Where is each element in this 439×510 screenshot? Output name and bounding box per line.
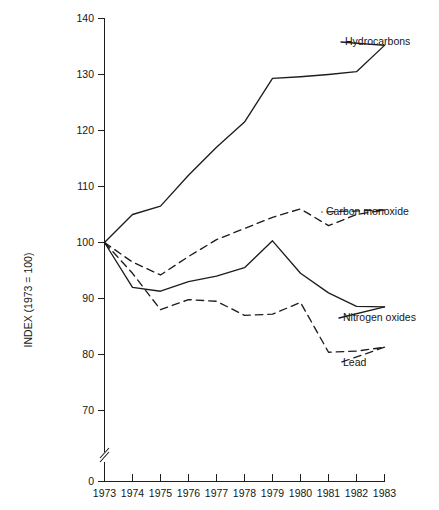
series-label-carbon-monoxide: Carbon monoxide — [326, 205, 409, 217]
x-tick-label-1980: 1980 — [289, 487, 313, 499]
series-line-lead — [105, 243, 385, 353]
x-tick-label-1982: 1982 — [345, 487, 369, 499]
y-tick-label-140: 140 — [76, 12, 94, 24]
x-tick-label-1979: 1979 — [261, 487, 285, 499]
series-label-nitrogen-oxides: Nitrogen oxides — [343, 311, 416, 323]
series-line-nitrogen-oxides — [105, 241, 385, 307]
y-tick-label-100: 100 — [76, 236, 94, 248]
y-tick-label-130: 130 — [76, 68, 94, 80]
x-tick-label-1983: 1983 — [373, 487, 397, 499]
x-tick-label-1978: 1978 — [233, 487, 257, 499]
series-label-lead: Lead — [343, 356, 367, 368]
x-tick-label-1973: 1973 — [93, 487, 117, 499]
y-tick-marks — [98, 19, 105, 482]
y-tick-label-90: 90 — [82, 292, 94, 304]
series-layer — [105, 45, 385, 352]
y-tick-label-80: 80 — [82, 348, 94, 360]
x-tick-label-1977: 1977 — [205, 487, 229, 499]
y-tick-labels: 140 130 120 110 100 90 80 70 0 — [76, 12, 94, 487]
y-tick-label-110: 110 — [77, 180, 94, 192]
y-tick-label-70: 70 — [82, 404, 94, 416]
x-tick-label-1976: 1976 — [177, 487, 201, 499]
y-tick-label-0: 0 — [88, 475, 94, 487]
y-axis-title: INDEX (1973 = 100) — [22, 253, 34, 348]
y-axis-group — [100, 18, 109, 481]
series-label-hydrocarbons: Hydrocarbons — [345, 35, 410, 47]
x-tick-label-1975: 1975 — [149, 487, 173, 499]
x-tick-marks — [105, 474, 385, 482]
x-tick-label-1981: 1981 — [317, 487, 341, 499]
x-tick-labels: 1973 1974 1975 1976 1977 1978 1979 1980 … — [93, 487, 397, 499]
x-tick-label-1974: 1974 — [121, 487, 145, 499]
series-label-layer: Hydrocarbons Carbon monoxide Nitrogen ox… — [322, 35, 416, 368]
chart-canvas: 140 130 120 110 100 90 80 70 0 INDEX (19… — [0, 0, 439, 510]
emissions-index-chart: 140 130 120 110 100 90 80 70 0 INDEX (19… — [0, 0, 439, 510]
y-tick-label-120: 120 — [76, 124, 94, 136]
series-line-carbon-monoxide — [105, 209, 385, 275]
